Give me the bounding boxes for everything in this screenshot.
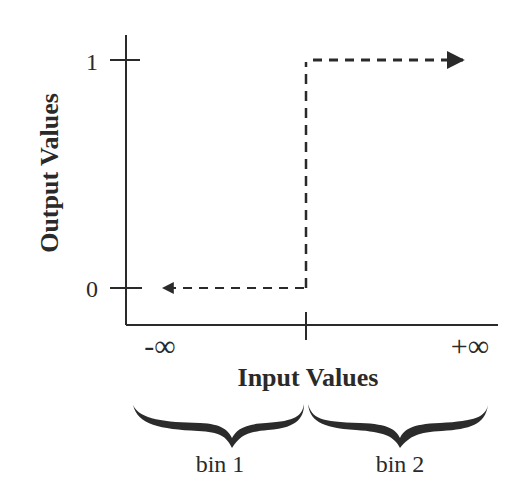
bin-2-brace (308, 404, 488, 448)
y-tick-label-1: 1 (86, 49, 98, 75)
step-function-diagram: 1 0 Output Values -∞ +∞ Input Values bin… (0, 0, 526, 501)
x-right-label: +∞ (451, 329, 489, 362)
bin-1-label: bin 1 (196, 451, 245, 477)
x-left-label: -∞ (144, 329, 175, 362)
bin-1-brace (133, 404, 304, 448)
y-tick-label-0: 0 (86, 276, 98, 302)
x-axis-label: Input Values (238, 363, 379, 392)
bin-2-label: bin 2 (376, 451, 425, 477)
y-axis-label: Output Values (35, 93, 64, 253)
